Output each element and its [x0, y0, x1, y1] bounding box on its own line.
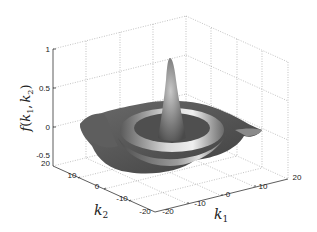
x-tick: -10	[194, 199, 206, 208]
x-tick: 10	[259, 182, 268, 191]
x-tick: 20	[293, 173, 302, 182]
x-tick-labels: -20 -10 0 10 20	[162, 173, 302, 216]
z-tick: 0.5	[39, 84, 51, 93]
z-tick-labels: 1 0.5 0 -0.5	[36, 45, 50, 160]
x-tick: 0	[226, 190, 231, 199]
x-tick: -20	[162, 207, 174, 216]
y-axis-label: k2	[94, 202, 108, 220]
y-tick: 20	[41, 159, 50, 168]
surface-plot: 1 0.5 0 -0.5 20 10 0 -10 -20 -20 -10 0 1…	[0, 0, 317, 232]
z-axis-label: f(k1,k2)	[18, 84, 35, 132]
y-tick: -10	[116, 194, 128, 203]
x-axis-label: k1	[214, 206, 228, 224]
z-tick: 0	[46, 123, 51, 132]
y-tick: -20	[139, 207, 151, 216]
y-tick: 10	[68, 171, 77, 180]
z-tick: 1	[46, 45, 51, 54]
y-tick: 0	[95, 182, 100, 191]
